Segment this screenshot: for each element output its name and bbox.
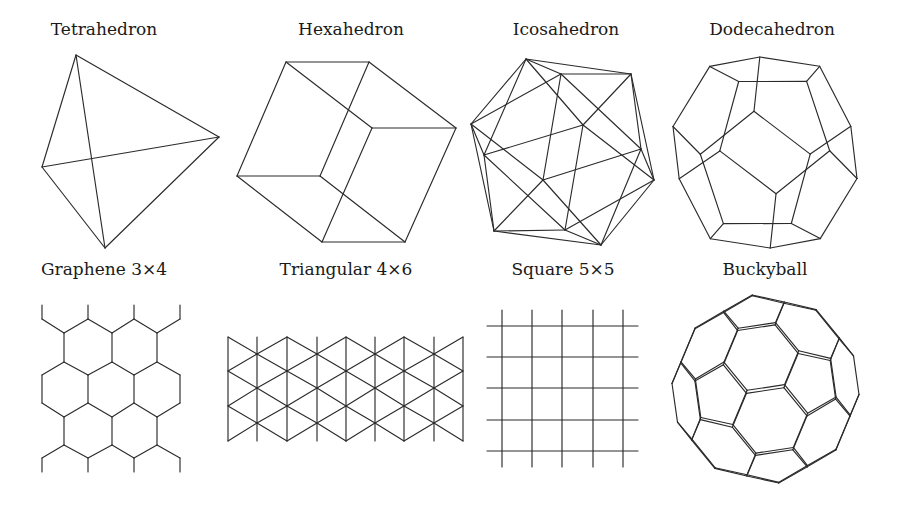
edge	[317, 388, 346, 406]
edge	[793, 413, 807, 447]
edge	[808, 397, 836, 413]
edge	[257, 354, 287, 371]
edge	[785, 351, 799, 385]
edge	[793, 447, 807, 465]
edge	[434, 354, 463, 371]
edge	[64, 403, 88, 417]
edge	[673, 66, 710, 126]
label-square: Square 5×5	[511, 261, 614, 278]
graphene-lattice-drawing	[42, 305, 180, 472]
edge	[405, 128, 456, 242]
edge	[776, 323, 799, 351]
edge	[112, 445, 134, 458]
edge	[807, 399, 836, 416]
label-hexahedron: Hexahedron	[298, 21, 404, 38]
edge	[784, 388, 807, 416]
buckyball-drawing	[672, 295, 859, 483]
edge	[112, 319, 134, 333]
edge	[754, 111, 810, 154]
edge	[375, 388, 404, 406]
edge	[434, 371, 463, 388]
edge	[752, 296, 784, 304]
edge	[286, 62, 372, 128]
edge	[673, 127, 679, 179]
edge	[404, 371, 434, 388]
edge	[134, 403, 157, 417]
edge	[228, 388, 257, 406]
edge	[64, 445, 88, 458]
edge	[672, 383, 677, 422]
edge	[375, 406, 404, 423]
edge	[322, 128, 372, 242]
edge	[42, 55, 76, 167]
edge	[404, 388, 434, 406]
edge	[710, 57, 760, 66]
edge	[695, 379, 700, 418]
edge	[320, 62, 369, 176]
edge	[710, 66, 739, 81]
edge	[791, 154, 810, 223]
edge	[561, 74, 641, 149]
edge	[42, 167, 105, 248]
label-triangular: Triangular 4×6	[280, 261, 413, 278]
edge	[830, 360, 835, 399]
edge	[830, 151, 857, 179]
edge	[679, 179, 710, 239]
edge	[257, 423, 287, 441]
edge	[157, 362, 180, 375]
edge	[831, 338, 840, 359]
edge	[807, 81, 830, 150]
edge	[228, 371, 257, 388]
edge	[369, 62, 456, 128]
edge	[237, 176, 322, 242]
edge	[42, 403, 64, 417]
edge	[700, 154, 723, 223]
edge	[317, 337, 346, 354]
edge	[851, 126, 857, 178]
edge	[724, 362, 747, 390]
edge	[228, 337, 257, 354]
label-graphene: Graphene 3×4	[41, 261, 167, 278]
edge	[346, 423, 375, 441]
edge	[700, 111, 754, 154]
edge	[807, 450, 836, 467]
edge	[715, 468, 747, 475]
edge	[237, 62, 286, 176]
edge	[88, 362, 112, 375]
edge	[760, 57, 820, 66]
edge	[471, 59, 526, 124]
edge	[723, 312, 737, 330]
edge	[320, 176, 405, 242]
edge	[679, 151, 720, 179]
edge	[287, 388, 317, 406]
edge	[776, 302, 785, 323]
edge	[733, 390, 747, 424]
edge	[836, 416, 850, 450]
edge	[257, 406, 287, 423]
edge	[64, 362, 88, 375]
edge	[375, 423, 404, 441]
edge	[317, 406, 346, 423]
edge	[404, 423, 434, 441]
edge	[76, 55, 105, 248]
edge	[42, 445, 64, 458]
edge	[779, 467, 807, 483]
edge	[346, 406, 375, 423]
edge	[770, 239, 820, 248]
edge	[287, 371, 317, 388]
edge	[681, 363, 695, 381]
edge	[601, 180, 654, 245]
edge	[134, 319, 157, 333]
edge	[257, 337, 287, 354]
dodecahedron-drawing	[673, 57, 857, 248]
edge	[565, 180, 654, 230]
edge	[836, 399, 850, 416]
edge	[134, 362, 157, 375]
edge	[854, 356, 859, 395]
edge	[695, 365, 723, 381]
edge	[723, 296, 752, 313]
edge	[42, 362, 64, 375]
edge	[228, 406, 257, 423]
edge	[317, 423, 346, 441]
edge	[816, 310, 839, 338]
